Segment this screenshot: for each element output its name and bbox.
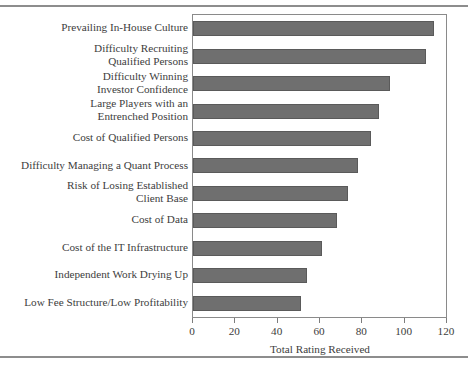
x-axis-title: Total Rating Received xyxy=(192,343,448,355)
x-axis-tick-label: 40 xyxy=(257,325,297,337)
bar-row xyxy=(193,152,447,179)
bar xyxy=(193,21,434,36)
x-axis-tick-label: 80 xyxy=(341,325,381,337)
bar-row xyxy=(193,290,447,317)
top-divider-rule xyxy=(0,5,468,7)
bar xyxy=(193,131,371,146)
category-label: Large Players with an Entrenched Positio… xyxy=(0,97,188,123)
bar xyxy=(193,296,301,311)
bars-container xyxy=(193,15,447,317)
bar xyxy=(193,76,390,91)
bar-chart-figure: Prevailing In-House CultureDifficulty Re… xyxy=(0,0,468,367)
bar-row xyxy=(193,97,447,124)
bar-row xyxy=(193,15,447,42)
bar-row xyxy=(193,262,447,289)
category-label: Cost of Qualified Persons xyxy=(0,131,188,144)
x-axis-tick xyxy=(277,318,278,323)
x-axis-tick xyxy=(234,318,235,323)
bar xyxy=(193,104,379,119)
category-label: Difficulty Managing a Quant Process xyxy=(0,159,188,172)
bar xyxy=(193,49,426,64)
bar xyxy=(193,186,348,201)
bar-row xyxy=(193,125,447,152)
category-label: Risk of Losing Established Client Base xyxy=(0,179,188,205)
x-axis-tick-label: 60 xyxy=(299,325,339,337)
category-label: Prevailing In-House Culture xyxy=(0,21,188,34)
x-axis-tick-label: 20 xyxy=(214,325,254,337)
category-label: Difficulty Winning Investor Confidence xyxy=(0,70,188,96)
x-axis-tick-labels: 020406080100120 xyxy=(0,325,468,341)
x-axis-tick xyxy=(319,318,320,323)
x-axis-tick xyxy=(446,318,447,323)
bar xyxy=(193,213,337,228)
bar-row xyxy=(193,70,447,97)
category-label: Low Fee Structure/Low Profitability xyxy=(0,296,188,309)
x-axis-tick xyxy=(192,318,193,323)
x-axis-tick-label: 0 xyxy=(172,325,212,337)
bottom-divider-rule xyxy=(0,356,468,358)
bar-row xyxy=(193,235,447,262)
bar-row xyxy=(193,207,447,234)
bar-row xyxy=(193,180,447,207)
x-axis-tickmarks xyxy=(192,318,448,324)
category-label: Independent Work Drying Up xyxy=(0,268,188,281)
x-axis-tick-label: 120 xyxy=(426,325,466,337)
category-label: Difficulty Recruiting Qualified Persons xyxy=(0,42,188,68)
bar xyxy=(193,158,358,173)
bar xyxy=(193,268,307,283)
category-axis-labels: Prevailing In-House CultureDifficulty Re… xyxy=(0,14,188,318)
x-axis-tick-label: 100 xyxy=(384,325,424,337)
category-label: Cost of Data xyxy=(0,213,188,226)
bar xyxy=(193,241,322,256)
x-axis-tick xyxy=(404,318,405,323)
x-axis-tick xyxy=(361,318,362,323)
category-label: Cost of the IT Infrastructure xyxy=(0,241,188,254)
bar-row xyxy=(193,42,447,69)
